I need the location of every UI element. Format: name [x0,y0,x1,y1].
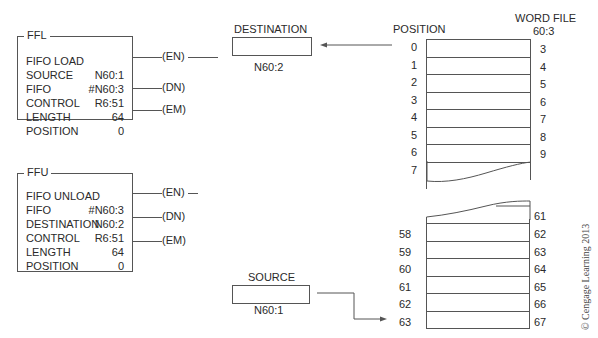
ffl-dn-coil: (DN) [162,81,185,93]
ffu-title: FFU [24,166,51,178]
position-index: 1 [411,59,417,72]
ffl-dn-rung [132,88,162,89]
ffu-dn-rung [132,217,162,218]
word-address: 67 [534,316,546,329]
ffu-em-coil: (EM) [162,234,186,246]
word-file-address: 60:3 [533,25,554,38]
ffl-instruction-block: FFL FIFO LOAD SOURCEN60:1 FIFO#N60:3 CON… [17,36,133,120]
arrow-left-icon [320,40,400,50]
word-address: 4 [540,61,546,74]
copyright-notice: © Cengage Learning 2013 [580,224,591,330]
ffl-en-coil: (EN) [162,50,185,62]
ffu-en-coil: (EN) [162,186,185,198]
position-index: 61 [399,281,411,294]
ffl-em-coil: (EM) [162,103,186,115]
ffu-en-output [188,193,198,194]
torn-edge [426,161,532,191]
ffu-instruction-block: FFU FIFO UNLOAD FIFO#N60:3 DESTINATIONN6… [17,173,133,272]
position-index: 7 [411,164,417,177]
position-index: 63 [399,316,411,329]
destination-address: N60:2 [254,61,283,74]
source-address: N60:1 [254,304,283,317]
position-index: 3 [411,94,417,107]
position-index: 4 [411,111,417,124]
position-index: 58 [399,228,411,241]
word-address: 65 [534,281,546,294]
ffl-en-rung [132,57,162,58]
word-address: 6 [540,96,546,109]
source-label: SOURCE [248,271,295,284]
word-address: 7 [540,113,546,126]
position-header: POSITION [393,23,446,36]
destination-label: DESTINATION [234,23,307,36]
word-file-header: WORD FILE [515,12,576,25]
word-address: 8 [540,131,546,144]
source-register [232,285,310,304]
position-index: 2 [411,76,417,89]
position-index: 6 [411,146,417,159]
ffl-title: FFL [24,29,50,41]
destination-register [232,37,312,56]
ffu-dn-coil: (DN) [162,210,185,222]
position-index: 59 [399,246,411,259]
arrow-right-icon [317,292,389,322]
ffl-em-rung [132,110,162,111]
position-index: 60 [399,263,411,276]
word-address: 63 [534,246,546,259]
ffu-en-rung [132,193,162,194]
word-address: 3 [540,43,546,56]
word-address: 62 [534,228,546,241]
word-address: 64 [534,263,546,276]
word-address: 61 [534,210,546,223]
position-index: 62 [399,298,411,311]
ffl-en-output [188,57,218,58]
word-address: 9 [540,148,546,161]
ffu-em-rung [132,241,162,242]
word-file-bottom [426,200,530,328]
position-index: 5 [411,129,417,142]
word-address: 66 [534,298,546,311]
word-address: 5 [540,78,546,91]
position-index: 0 [411,41,417,54]
word-file-top [426,39,531,189]
